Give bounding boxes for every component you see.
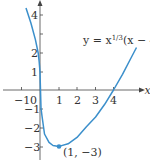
x-tick-label: 2: [74, 94, 81, 107]
x-tick-label: 4: [110, 94, 117, 107]
function-graph: x −1 0 1 2 3 4 4 2 1 −1 −2 −3 (1, −3): [0, 0, 150, 165]
minimum-point-label: (1, −3): [63, 146, 102, 159]
equation-exponent: 1/3: [112, 34, 123, 42]
y-tick-label: −2: [24, 122, 40, 135]
y-tick-label: 4: [31, 9, 38, 22]
y-tick-label: −3: [24, 141, 40, 154]
x-tick-label: 1: [56, 94, 63, 107]
function-curve: [26, 8, 137, 146]
x-tick-label: 3: [92, 94, 99, 107]
y-tick-label: −1: [24, 103, 40, 116]
equation-base: y = x: [82, 34, 112, 47]
equation-rest: (x − 4): [123, 34, 150, 47]
minimum-point-marker: [57, 144, 62, 149]
y-axis-arrow-icon: [38, 0, 43, 6]
x-axis-label: x: [145, 84, 151, 97]
equation-label: y = x1/3(x − 4): [82, 34, 150, 47]
y-tick-label: 1: [31, 66, 38, 79]
